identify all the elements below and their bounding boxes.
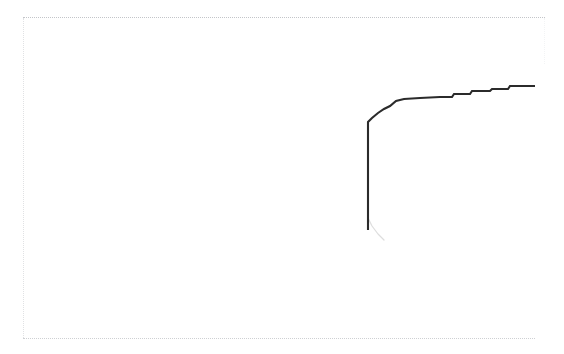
- curve-faint-tail: [368, 218, 384, 240]
- chart-plot-area: [0, 0, 564, 354]
- series-step-curve: [368, 86, 535, 240]
- chart-screenshot: [0, 0, 564, 354]
- curve-main-line: [368, 86, 535, 230]
